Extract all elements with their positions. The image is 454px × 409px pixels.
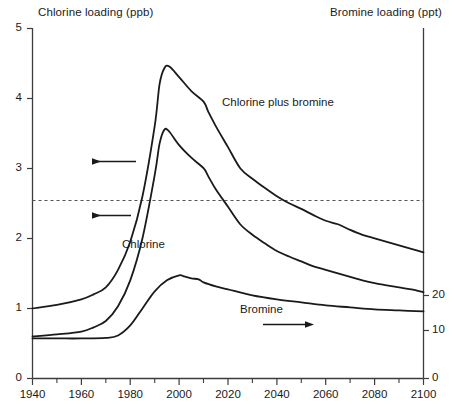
series-label-bromine: Bromine bbox=[240, 303, 283, 315]
x-tick-label-1980: 1980 bbox=[107, 388, 153, 400]
chart-plot-area bbox=[0, 0, 454, 409]
x-tick-label-1940: 1940 bbox=[10, 388, 56, 400]
series-label-chlorine: Chlorine bbox=[122, 238, 165, 250]
axis-lines bbox=[33, 28, 424, 379]
y-tick-label-left-3: 3 bbox=[4, 161, 22, 173]
x-tick-label-2080: 2080 bbox=[352, 388, 398, 400]
y-tick-label-right-20: 20 bbox=[432, 288, 454, 300]
y-tick-label-left-4: 4 bbox=[4, 91, 22, 103]
right-axis-ticks bbox=[424, 296, 430, 379]
y-tick-label-left-0: 0 bbox=[4, 371, 22, 383]
x-tick-label-2060: 2060 bbox=[303, 388, 349, 400]
y-tick-label-left-5: 5 bbox=[4, 21, 22, 33]
x-tick-label-2040: 2040 bbox=[254, 388, 300, 400]
series-label-chlorine-plus-bromine: Chlorine plus bromine bbox=[222, 96, 334, 108]
y-tick-label-right-10: 10 bbox=[432, 323, 454, 335]
x-tick-label-2100: 2100 bbox=[401, 388, 447, 400]
y-tick-label-right-0: 0 bbox=[432, 371, 454, 383]
x-tick-label-2000: 2000 bbox=[156, 388, 202, 400]
y-tick-label-left-2: 2 bbox=[4, 231, 22, 243]
x-axis-major-ticks bbox=[33, 379, 424, 386]
series-line-chlorine bbox=[33, 129, 424, 337]
chart-figure: Chlorine loading (ppb) Bromine loading (… bbox=[0, 0, 454, 409]
left-axis-ticks bbox=[27, 29, 33, 379]
x-tick-label-1960: 1960 bbox=[58, 388, 104, 400]
x-tick-label-2020: 2020 bbox=[205, 388, 251, 400]
y-tick-label-left-1: 1 bbox=[4, 301, 22, 313]
